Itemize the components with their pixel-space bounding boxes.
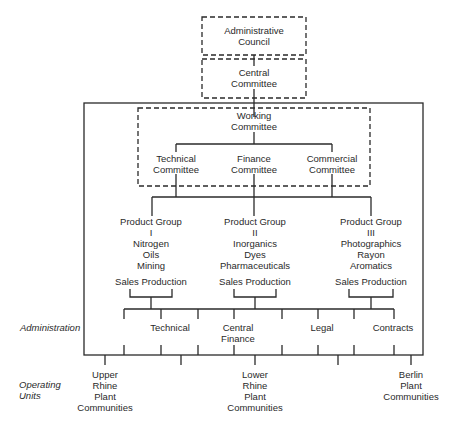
node-label: Product Group	[220, 216, 290, 227]
working-committee-node: Working Committee	[231, 110, 277, 132]
node-label: Aromatics	[340, 260, 402, 271]
node-label: Communities	[227, 402, 282, 413]
node-label: Committee	[307, 164, 358, 175]
admin-central-finance-node: Central Finance	[221, 322, 255, 344]
node-label: Rhine	[77, 380, 132, 391]
node-label: III	[340, 227, 402, 238]
upper-rhine-node: Upper Rhine Plant Communities	[77, 369, 132, 413]
sales-production-2: Sales Production	[219, 276, 291, 287]
node-label: I	[120, 227, 182, 238]
node-label: Communities	[77, 402, 132, 413]
product-group-1-node: Product Group I Nitrogen Oils Mining	[120, 216, 182, 271]
node-label: Sales Production	[219, 276, 291, 287]
node-label: Committee	[231, 78, 277, 89]
central-committee-node: Central Committee	[231, 67, 277, 89]
node-label: Dyes	[220, 249, 290, 260]
node-label: Photographics	[340, 238, 402, 249]
node-label: Sales Production	[335, 276, 407, 287]
product-group-3-node: Product Group III Photographics Rayon Ar…	[340, 216, 402, 271]
node-label: Nitrogen	[120, 238, 182, 249]
node-label: Finance	[221, 333, 255, 344]
node-label: Committee	[231, 164, 277, 175]
node-label: Rayon	[340, 249, 402, 260]
row-label: Operating	[19, 379, 61, 390]
berlin-node: Berlin Plant Communities	[383, 369, 438, 402]
node-label: Central	[221, 322, 255, 333]
commercial-committee-node: Commercial Committee	[307, 153, 358, 175]
node-label: II	[220, 227, 290, 238]
row-label: Units	[19, 390, 61, 401]
admin-legal-node: Legal	[310, 322, 333, 333]
node-label: Inorganics	[220, 238, 290, 249]
row-label: Administration	[20, 322, 80, 333]
node-label: Working	[231, 110, 277, 121]
node-label: Upper	[77, 369, 132, 380]
node-label: Contracts	[373, 322, 414, 333]
node-label: Committee	[153, 164, 199, 175]
admin-contracts-node: Contracts	[373, 322, 414, 333]
sales-production-3: Sales Production	[335, 276, 407, 287]
node-label: Plant	[383, 380, 438, 391]
node-label: Legal	[310, 322, 333, 333]
row-label-administration: Administration	[20, 322, 80, 333]
node-label: Sales Production	[115, 276, 187, 287]
node-label: Plant	[77, 391, 132, 402]
org-chart: Administrative Council Central Committee…	[0, 0, 452, 423]
node-label: Communities	[383, 391, 438, 402]
product-group-2-node: Product Group II Inorganics Dyes Pharmac…	[220, 216, 290, 271]
lower-rhine-node: Lower Rhine Plant Communities	[227, 369, 282, 413]
admin-council-node: Administrative Council	[224, 25, 284, 47]
node-label: Administrative	[224, 25, 284, 36]
node-label: Technical	[153, 153, 199, 164]
node-label: Product Group	[120, 216, 182, 227]
node-label: Technical	[150, 322, 190, 333]
node-label: Central	[231, 67, 277, 78]
node-label: Rhine	[227, 380, 282, 391]
node-label: Lower	[227, 369, 282, 380]
admin-technical-node: Technical	[150, 322, 190, 333]
node-label: Oils	[120, 249, 182, 260]
node-label: Mining	[120, 260, 182, 271]
row-label-operating-units: Operating Units	[19, 379, 61, 401]
node-label: Committee	[231, 121, 277, 132]
node-label: Commercial	[307, 153, 358, 164]
node-label: Plant	[227, 391, 282, 402]
node-label: Finance	[231, 153, 277, 164]
sales-production-1: Sales Production	[115, 276, 187, 287]
node-label: Berlin	[383, 369, 438, 380]
node-label: Pharmaceuticals	[220, 260, 290, 271]
node-label: Council	[224, 36, 284, 47]
technical-committee-node: Technical Committee	[153, 153, 199, 175]
node-label: Product Group	[340, 216, 402, 227]
org-chart-lines	[0, 0, 452, 423]
finance-committee-node: Finance Committee	[231, 153, 277, 175]
